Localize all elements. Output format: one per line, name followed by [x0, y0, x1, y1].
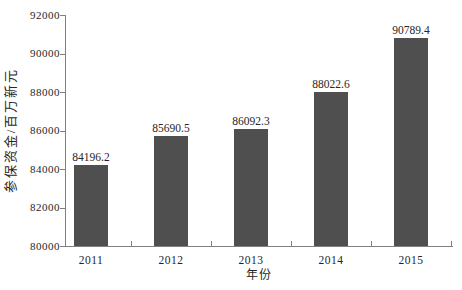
x-minor-tick [131, 241, 132, 246]
y-tick-label: 88000 [18, 86, 60, 99]
y-axis-line [65, 15, 66, 247]
bar-value-label: 85690.5 [136, 121, 206, 135]
y-tick [60, 131, 65, 132]
bar-value-label: 88022.6 [296, 77, 366, 91]
x-axis-line [65, 246, 453, 247]
y-tick-label: 86000 [18, 124, 60, 137]
x-minor-tick [211, 241, 212, 246]
y-tick [60, 15, 65, 16]
bar [154, 136, 188, 246]
y-tick-label: 84000 [18, 163, 60, 176]
bar-value-label: 90789.4 [376, 23, 446, 37]
y-tick-label: 82000 [18, 201, 60, 214]
bar [74, 165, 108, 246]
y-tick [60, 208, 65, 209]
x-tick-label: 2013 [221, 253, 281, 267]
bar-chart-figure: 参保资金/百万新元 年份 800008200084000860008800090… [0, 0, 462, 290]
y-tick-label: 90000 [18, 47, 60, 60]
x-tick-label: 2015 [381, 253, 441, 267]
y-tick [60, 169, 65, 170]
bar [394, 38, 428, 246]
y-tick [60, 54, 65, 55]
y-tick [60, 92, 65, 93]
bar-value-label: 86092.3 [216, 114, 286, 128]
x-tick-label: 2011 [61, 253, 121, 267]
x-minor-tick [291, 241, 292, 246]
bar-value-label: 84196.2 [56, 150, 126, 164]
y-axis-title: 参保资金/百万新元 [3, 32, 18, 230]
y-tick-label: 92000 [18, 9, 60, 22]
x-minor-tick [451, 241, 452, 246]
bar [314, 92, 348, 246]
y-tick-label: 80000 [18, 240, 60, 253]
x-minor-tick [371, 241, 372, 246]
x-axis-title: 年份 [219, 268, 299, 283]
x-tick-label: 2012 [141, 253, 201, 267]
bar [234, 129, 268, 246]
y-tick [60, 246, 65, 247]
x-tick-label: 2014 [301, 253, 361, 267]
